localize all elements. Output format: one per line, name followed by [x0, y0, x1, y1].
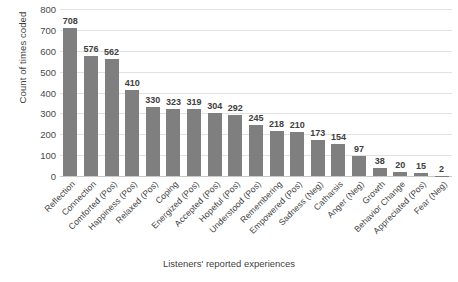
bar-value-label: 154: [331, 133, 346, 142]
bar-value-label: 330: [145, 96, 160, 105]
bar-value-label: 319: [187, 98, 202, 107]
bar-value-label: 410: [125, 79, 140, 88]
bar-slot: 562: [101, 9, 122, 176]
bar[interactable]: [125, 90, 139, 176]
y-axis-tick: 400: [24, 87, 56, 98]
bar-slot: 319: [184, 9, 205, 176]
y-axis-tick: 500: [24, 66, 56, 77]
x-axis-title: Listeners' reported experiences: [0, 258, 458, 269]
bar-value-label: 562: [104, 48, 119, 57]
bar-value-label: 20: [395, 161, 405, 170]
y-axis-tick: 800: [24, 4, 56, 15]
y-axis-tick: 100: [24, 150, 56, 161]
bar[interactable]: [228, 115, 242, 176]
bar-value-label: 708: [63, 17, 78, 26]
bar-value-label: 292: [228, 104, 243, 113]
bar-slot: 410: [122, 9, 143, 176]
bar[interactable]: [393, 172, 407, 176]
x-axis-tick-slot: Appreciated (Pos): [411, 177, 432, 253]
bar-slot: 38: [369, 9, 390, 176]
bar[interactable]: [166, 109, 180, 176]
y-axis-tick: 200: [24, 129, 56, 140]
bar-slot: 708: [60, 9, 81, 176]
bar[interactable]: [187, 109, 201, 176]
x-axis-tick-slot: Sadness (Neg): [308, 177, 329, 253]
bar-value-label: 218: [269, 120, 284, 129]
bar[interactable]: [352, 156, 366, 176]
bar-value-label: 173: [310, 129, 325, 138]
bar-slot: 154: [328, 9, 349, 176]
y-axis-tick: 300: [24, 108, 56, 119]
bar-value-label: 97: [354, 145, 364, 154]
bar-value-label: 245: [248, 114, 263, 123]
bar-value-label: 576: [83, 45, 98, 54]
bar-slot: 15: [411, 9, 432, 176]
bar[interactable]: [311, 140, 325, 176]
plot-area: 7085765624103303233193042922452182101731…: [60, 9, 452, 176]
bar-slot: 576: [81, 9, 102, 176]
bar-slot: 330: [143, 9, 164, 176]
bar[interactable]: [414, 173, 428, 176]
bar[interactable]: [290, 132, 304, 176]
bar[interactable]: [249, 125, 263, 176]
bar-series: 7085765624103303233193042922452182101731…: [60, 9, 452, 176]
bar[interactable]: [331, 144, 345, 176]
bar[interactable]: [63, 28, 77, 176]
bar-chart: Count of times coded 8007006005004003002…: [0, 0, 458, 282]
x-axis-tick-slot: Fear (Neg): [431, 177, 452, 253]
bar-slot: 97: [349, 9, 370, 176]
bar-slot: 292: [225, 9, 246, 176]
bar[interactable]: [208, 113, 222, 176]
bar-slot: 323: [163, 9, 184, 176]
bar[interactable]: [146, 107, 160, 176]
bar-value-label: 15: [416, 162, 426, 171]
bar-value-label: 210: [290, 121, 305, 130]
y-axis-tick: 700: [24, 24, 56, 35]
bar-slot: 304: [204, 9, 225, 176]
bar-slot: 245: [246, 9, 267, 176]
bar-value-label: 2: [439, 165, 444, 174]
bar-value-label: 304: [207, 102, 222, 111]
bar-slot: 173: [308, 9, 329, 176]
x-axis-tick-labels: ReflectionConnectionComforted (Pos)Happi…: [60, 177, 452, 253]
bar[interactable]: [270, 131, 284, 177]
bar-value-label: 323: [166, 98, 181, 107]
bar-slot: 218: [266, 9, 287, 176]
bar-slot: 2: [431, 9, 452, 176]
y-axis-tick: 600: [24, 45, 56, 56]
y-axis-tick: 0: [24, 171, 56, 182]
bar[interactable]: [373, 168, 387, 176]
bar-value-label: 38: [375, 157, 385, 166]
bar[interactable]: [84, 56, 98, 176]
bar-slot: 20: [390, 9, 411, 176]
y-axis-tick-labels: 8007006005004003002001000: [24, 9, 56, 176]
bar[interactable]: [105, 59, 119, 176]
bar-slot: 210: [287, 9, 308, 176]
